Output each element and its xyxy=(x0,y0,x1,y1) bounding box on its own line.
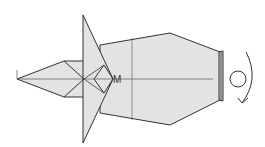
label-m: M xyxy=(113,74,121,85)
origami-diagram: M xyxy=(0,0,265,147)
rotate-arrow-icon xyxy=(230,52,252,103)
